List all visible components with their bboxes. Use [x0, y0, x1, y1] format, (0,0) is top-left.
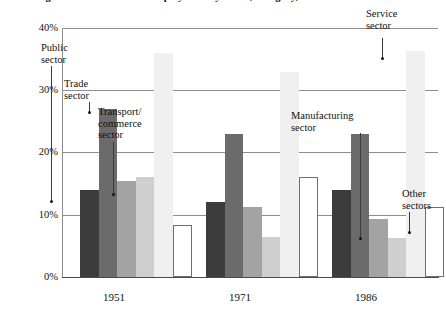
- bar-other-sectors-1971: [299, 177, 318, 277]
- bar-other-sectors-1986: [425, 207, 444, 277]
- bar-public-sector-1986: [332, 190, 351, 277]
- leader-line-other-sectors: [409, 212, 410, 232]
- leader-line-transport-commerce-sector: [113, 142, 114, 194]
- bar-chart: Figure 1. Distribution of employment by …: [0, 0, 446, 317]
- x-tick-1971: 1971: [184, 292, 296, 303]
- x-axis-line: [62, 277, 439, 278]
- leader-dot-manufacturing-sector: [359, 237, 362, 240]
- annotation-other-sectors: Other sectors: [402, 188, 431, 211]
- bar-group-1971: [206, 28, 318, 277]
- bar-public-sector-1951: [80, 190, 99, 277]
- annotation-manufacturing-sector: Manufacturing sector: [291, 110, 353, 133]
- x-tick-1951: 1951: [58, 292, 170, 303]
- annotation-service-sector: Service sector: [366, 8, 398, 31]
- y-axis-line: [62, 28, 63, 278]
- bar-group-1951: [80, 28, 192, 277]
- x-tick-1986: 1986: [310, 292, 422, 303]
- leader-dot-public-sector: [50, 200, 53, 203]
- leader-line-service-sector: [382, 38, 383, 58]
- bar-service-sector-1971: [280, 72, 299, 277]
- plot-area: [62, 28, 438, 277]
- bar-transport-commerce-sector-1986: [369, 219, 388, 277]
- annotation-transport-commerce-sector: Transport/ commerce sector: [98, 106, 142, 141]
- leader-dot-other-sectors: [408, 231, 411, 234]
- y-tick-0: 0%: [6, 272, 58, 283]
- annotation-public-sector: Public sector: [41, 42, 68, 65]
- leader-line-manufacturing-sector: [360, 133, 361, 238]
- leader-line-public-sector: [51, 66, 52, 201]
- bar-service-sector-1951: [154, 53, 173, 277]
- bar-manufacturing-sector-1971: [262, 237, 281, 277]
- y-tick-10: 10%: [6, 210, 58, 221]
- leader-dot-transport-commerce-sector: [112, 193, 115, 196]
- bar-trade-sector-1971: [225, 134, 244, 277]
- leader-dot-trade-sector: [88, 111, 91, 114]
- bar-group-1986: [332, 28, 444, 277]
- annotation-trade-sector: Trade sector: [64, 78, 89, 101]
- bar-other-sectors-1951: [173, 225, 192, 277]
- bar-service-sector-1986: [406, 51, 425, 277]
- bar-transport-commerce-sector-1971: [243, 207, 262, 277]
- y-tick-40: 40%: [6, 23, 58, 34]
- leader-dot-service-sector: [381, 57, 384, 60]
- bar-manufacturing-sector-1986: [388, 238, 407, 277]
- bar-transport-commerce-sector-1951: [117, 181, 136, 277]
- bar-manufacturing-sector-1951: [136, 177, 155, 277]
- chart-title: Figure 1. Distribution of employment by …: [36, 0, 436, 3]
- bar-public-sector-1971: [206, 202, 225, 277]
